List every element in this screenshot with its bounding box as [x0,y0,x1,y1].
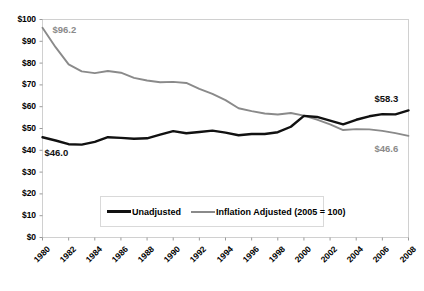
y-axis-tick-label: $60 [2,101,36,111]
y-axis-tick-label: $10 [2,210,36,220]
data-label: $46.0 [45,147,69,158]
legend-label-unadjusted: Unadjusted [132,207,181,217]
y-axis-tick-label: $20 [2,188,36,198]
chart-legend: Unadjusted Inflation Adjusted (2005 = 10… [100,196,324,227]
y-axis-tick-label: $30 [2,167,36,177]
legend-item-unadjusted[interactable]: Unadjusted [107,207,181,217]
y-axis-tick-label: $100 [2,14,36,24]
data-label: $46.6 [375,143,399,154]
legend-label-inflation-adjusted: Inflation Adjusted (2005 = 100) [216,207,345,217]
legend-swatch-unadjusted [107,210,131,213]
y-axis-tick-label: $90 [2,36,36,46]
y-axis-tick-label: $70 [2,79,36,89]
y-axis-tick-label: $0 [2,232,36,242]
y-axis-tick-label: $80 [2,58,36,68]
data-label: $58.3 [375,93,399,104]
y-axis-tick-label: $50 [2,123,36,133]
data-label: $96.2 [53,24,77,35]
line-chart: $0$10$20$30$40$50$60$70$80$90$100 198019… [0,0,424,291]
legend-swatch-inflation-adjusted [191,211,215,213]
y-axis-tick-label: $40 [2,145,36,155]
legend-item-inflation-adjusted[interactable]: Inflation Adjusted (2005 = 100) [191,207,345,217]
